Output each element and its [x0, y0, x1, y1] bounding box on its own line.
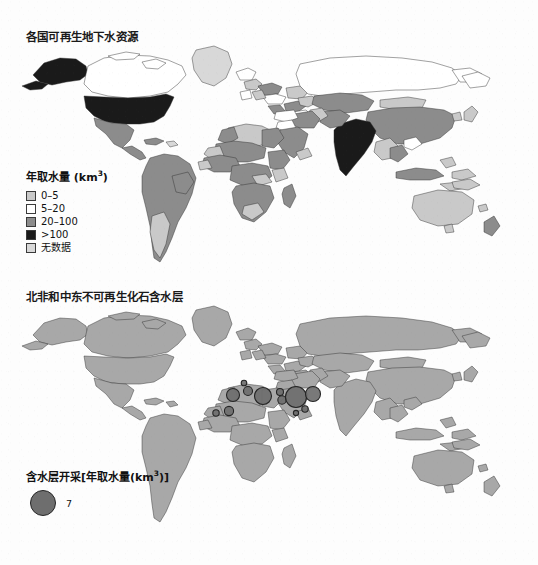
figure-canvas: 各国可再生地下水资源 .ln { stroke:#2e2e2e; stroke-…	[0, 0, 538, 565]
legend-bubble-sample	[30, 490, 56, 516]
legend-item-5-20: 5–20	[26, 202, 108, 215]
legend-label-5-20: 5–20	[41, 203, 65, 215]
aquifer-bubble	[241, 380, 247, 386]
aquifer-bubble	[286, 387, 307, 408]
panel-title-fossil: 北非和中东不可再生化石含水层	[26, 288, 183, 304]
legend-bubble-value: 7	[66, 498, 72, 509]
aquifer-bubble	[213, 410, 219, 416]
aquifer-bubble	[278, 396, 286, 404]
legend-title-fossil: 含水层开采[年取水量(km3)]	[26, 468, 169, 484]
legend-label-gt-100: >100	[41, 229, 68, 241]
legend-swatch-5-20	[26, 204, 36, 214]
aquifer-bubble	[227, 389, 240, 402]
panel-title-renewable: 各国可再生地下水资源	[26, 28, 138, 44]
aquifer-bubble	[306, 387, 321, 402]
legend-title-renewable: 年取水量 (km3)	[26, 168, 108, 184]
aquifer-bubble	[244, 387, 253, 396]
legend-swatch-20-100	[26, 217, 36, 227]
aquifer-bubble	[302, 406, 308, 412]
legend-label-0-5: 0–5	[41, 190, 59, 202]
legend-item-0-5: 0–5	[26, 189, 108, 202]
aquifer-bubble	[277, 389, 284, 396]
panel-renewable-groundwater: 各国可再生地下水资源 .ln { stroke:#2e2e2e; stroke-…	[0, 0, 538, 272]
legend-renewable: 年取水量 (km3) 0–5 5–20 20–100 >100 无数据	[26, 168, 108, 254]
legend-fossil: 含水层开采[年取水量(km3)] 7	[26, 468, 169, 516]
legend-swatch-0-5	[26, 191, 36, 201]
legend-item-no-data: 无数据	[26, 241, 108, 254]
legend-label-20-100: 20–100	[41, 216, 78, 228]
legend-item-20-100: 20–100	[26, 215, 108, 228]
legend-swatch-gt-100	[26, 230, 36, 240]
aquifer-bubble	[224, 406, 233, 415]
legend-swatch-no-data	[26, 243, 36, 253]
panel-fossil-aquifers: 北非和中东不可再生化石含水层 .l2 { stroke:#2e2e2e; str…	[0, 272, 538, 565]
legend-bubble-row: 7	[26, 490, 169, 516]
legend-label-no-data: 无数据	[41, 242, 71, 254]
aquifer-bubble	[293, 410, 298, 415]
world-map-bubble: .l2 { stroke:#2e2e2e; stroke-width:0.45;…	[0, 272, 538, 565]
legend-item-gt-100: >100	[26, 228, 108, 241]
aquifer-bubble	[255, 388, 272, 405]
